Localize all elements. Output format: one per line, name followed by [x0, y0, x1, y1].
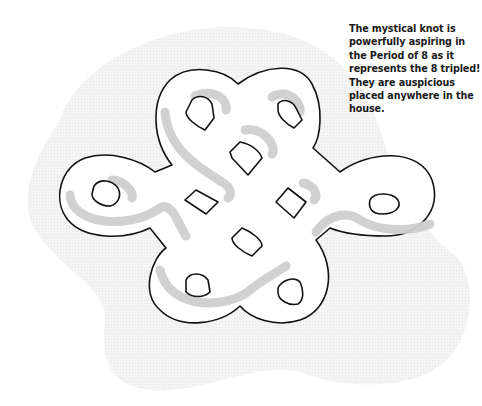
caption-text: The mystical knot is powerfully aspiring…	[349, 22, 481, 116]
hole	[92, 181, 120, 206]
hole	[370, 194, 400, 214]
hole	[278, 279, 303, 304]
hole	[186, 274, 210, 297]
